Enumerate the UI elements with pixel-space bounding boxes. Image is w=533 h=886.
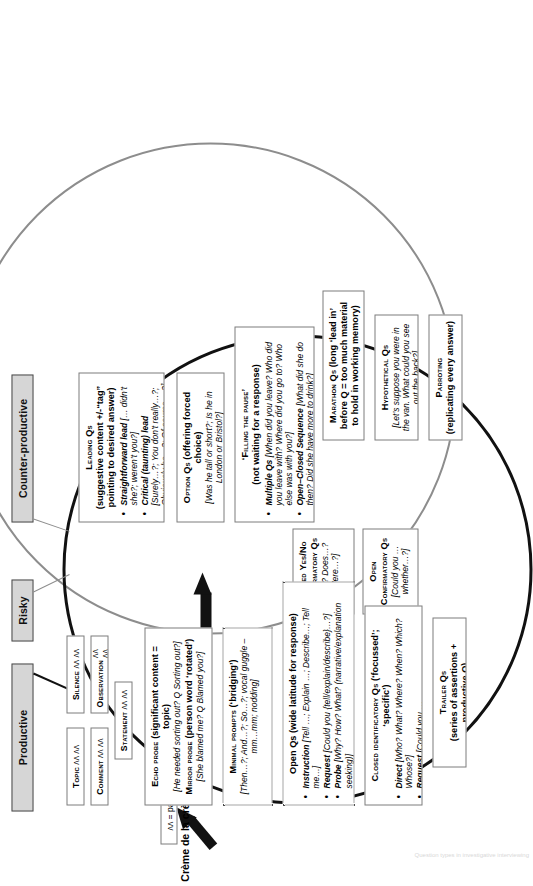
list-item: Request [Could you {tell/explain/describ…: [321, 587, 331, 788]
list-item: Multiple Qs [When did you leave? Who did…: [263, 332, 294, 505]
box-closed-identificatory-qs: Closed identificatory Qs (‘focussed’; ‘s…: [364, 605, 422, 805]
list-item: Critical (taunting) lead [Surely…?; You …: [139, 378, 164, 505]
option-title-bold: (offering forced choice): [181, 391, 202, 463]
banner-counter-productive-label: Counter-productive: [16, 398, 28, 497]
closedid-bullets: Direct [Who? What? Where? When? Which? W…: [393, 611, 422, 799]
parroting-title-smallcaps: Parroting: [433, 357, 443, 397]
open-conf-title-smallcaps: Open Confirmatory Qs: [367, 537, 388, 604]
trailer-title-smallcaps: Trailer Qs: [437, 670, 447, 714]
hypothetical-example: [Let’s suppose you were in the van. What…: [390, 320, 418, 434]
figure-caption: Question types in investigative intervie…: [0, 852, 533, 858]
comment-label: Comment: [94, 760, 104, 794]
box-silence: Silence ʌʌ ʌʌ: [66, 635, 84, 713]
minimal-example: [Then…?; And…?; So…?; vocal guggle – mm……: [238, 633, 258, 799]
box-minimal-prompts: Minimal prompts (‘bridging’) [Then…?; An…: [222, 627, 272, 805]
leading-bullets: Straightforward lead [… didn’t she?; wer…: [118, 378, 164, 516]
minimal-title-bold: (‘bridging’): [227, 659, 237, 710]
list-item: Probe [Why? How? What? (narrative/explan…: [332, 587, 352, 788]
box-option-qs: Option Qs (offering forced choice) [Was …: [176, 372, 224, 522]
banner-risky-label: Risky: [16, 596, 28, 625]
list-item: Instruction [Tell …; Explain …; Describe…: [300, 587, 320, 788]
box-open-qs: Open Qs (wide latitude for response) Ins…: [282, 581, 354, 805]
leading-title-bold: (suggestive content +/-“tag” pointing to…: [94, 378, 116, 516]
list-item: Open–Closed Sequence [What did she do th…: [294, 332, 314, 505]
box-open-confirmatory-qs: Open Confirmatory Qs [Could you … whethe…: [362, 528, 418, 614]
option-example: [Was he tall or short?; Is he in London …: [203, 378, 223, 516]
silence-marks: ʌʌ ʌʌ: [70, 648, 80, 668]
hypothetical-title-smallcaps: Hypothetical Qs: [379, 344, 389, 410]
box-statement: Statement ʌʌ ʌʌ: [114, 681, 132, 759]
banner-risky: Risky: [11, 579, 33, 641]
parroting-title-bold: (replicating every answer): [444, 320, 455, 434]
open-bullets: Instruction [Tell …; Explain …; Describe…: [300, 587, 354, 799]
minimal-title-smallcaps: Minimal prompts: [227, 710, 237, 774]
list-item: Direct [Who? What? Where? When? Which? W…: [393, 611, 413, 788]
echo-title-smallcaps: Echo probe: [149, 741, 159, 786]
box-echo-probe: Echo probe (significant content = topic)…: [144, 627, 212, 805]
echo-example-1: [He needed sorting out? Q Sorting out?]: [171, 633, 181, 799]
comment-marks: ʌʌ ʌʌ: [94, 738, 104, 758]
open-conf-example: [Could you … whether…?]: [389, 534, 409, 608]
filling-bullets: Multiple Qs [When did you leave? Who did…: [263, 332, 314, 516]
box-marathon-qs: Marathon Qs (long ‘lead in’ before Q = t…: [322, 290, 364, 440]
box-comment: Comment ʌʌ ʌʌ: [90, 727, 108, 805]
mirror-title-bold: (person word ‘rotated’): [183, 638, 193, 741]
risky-arrow-head: [193, 572, 211, 594]
box-leading-qs: Leading Qs (suggestive content +/-“tag” …: [78, 372, 164, 522]
box-parroting: Parroting (replicating every answer): [428, 314, 462, 440]
observation-marks: ʌʌ ʌʌ: [90, 641, 108, 657]
echo-example-2: [She blamed me? Q Blamed you?]: [194, 633, 204, 799]
filling-title-bold: (not waiting for a response): [250, 332, 261, 516]
banner-counter-productive: Counter-productive: [11, 374, 33, 522]
leading-title-smallcaps: Leading Qs: [83, 425, 93, 470]
mirror-title-smallcaps: Mirror probe: [183, 741, 193, 794]
box-hypothetical-qs: Hypothetical Qs [Let’s suppose you were …: [374, 314, 418, 440]
closedid-title-smallcaps: Closed identificatory Qs: [369, 683, 379, 781]
statement-marks: ʌʌ ʌʌ: [118, 689, 128, 709]
option-title-smallcaps: Option Qs: [181, 462, 191, 503]
marathon-title-smallcaps: Marathon Qs: [327, 369, 337, 422]
topic-marks: ʌʌ ʌʌ: [70, 745, 80, 765]
box-observation: Observation ʌʌ ʌʌ: [90, 635, 108, 713]
statement-label: Statement: [118, 711, 128, 750]
filling-title-smallcaps: ‘Filling the pause’: [239, 388, 249, 460]
banner-productive: Productive: [11, 663, 33, 811]
silence-label: Silence: [70, 670, 80, 699]
list-item: Request [Could you … {say/tell/explain/d…: [414, 611, 422, 788]
box-topic: Topic ʌʌ ʌʌ: [66, 727, 84, 805]
box-trailer-qs: Trailer Qs (series of assertions + produ…: [432, 617, 466, 767]
trailer-title-bold: (series of assertions + productive Q): [448, 623, 466, 761]
banner-productive-label: Productive: [16, 709, 28, 764]
echo-title-bold: (significant content = topic): [149, 646, 170, 741]
observation-label: Observation: [94, 660, 104, 707]
list-item: Straightforward lead [… didn’t she?; wer…: [118, 378, 138, 505]
topic-label: Topic: [70, 767, 80, 788]
open-title-bold: Open Qs (wide latitude for response): [287, 587, 298, 799]
box-filling-the-pause: ‘Filling the pause’ (not waiting for a r…: [234, 326, 314, 522]
